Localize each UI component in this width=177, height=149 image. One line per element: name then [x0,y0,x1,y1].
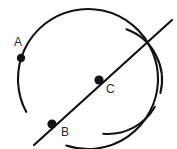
point-dot-a [17,54,25,62]
figure-canvas [0,0,177,149]
point-label-a: A [14,36,22,48]
main-circle-arc [18,9,158,149]
point-dot-c [94,75,103,84]
point-label-c: C [106,83,115,95]
point-label-b: B [61,126,69,138]
point-dot-b [47,119,56,128]
geometry-figure: A B C [0,0,177,149]
secondary-arc-lower [103,107,154,134]
